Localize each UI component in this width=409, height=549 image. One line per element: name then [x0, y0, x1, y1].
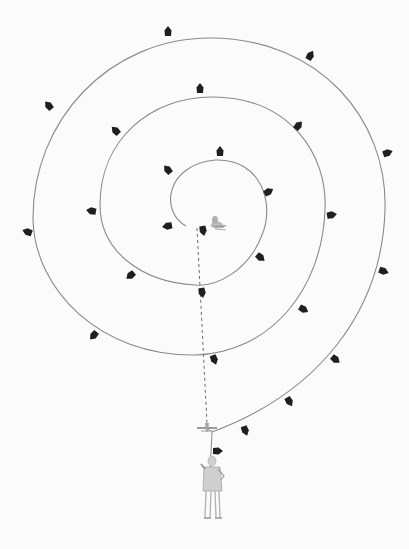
paper-background — [0, 0, 409, 549]
diagram-canvas — [0, 0, 409, 549]
